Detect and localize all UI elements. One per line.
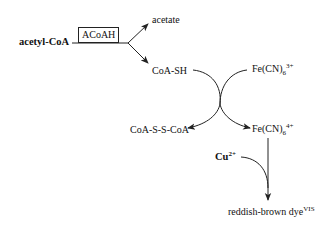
- curve-coash-to-disulfide: [188, 70, 220, 128]
- product-acetate: acetate: [152, 15, 180, 25]
- arrow-to-acetate: [128, 24, 148, 43]
- dye-label: reddish-brown dyeVIS: [228, 207, 315, 217]
- enzyme-label: ACoAH: [82, 29, 115, 40]
- curve-ferri-to-ferro: [220, 70, 250, 128]
- curve-copper: [241, 157, 268, 188]
- substrate-label: acetyl-CoA: [19, 37, 69, 48]
- ferrocyanide-label: Fe(CN)64+: [252, 124, 294, 134]
- arrow-to-coash: [128, 43, 148, 63]
- reaction-arrows: [0, 0, 332, 228]
- enzyme-box: ACoAH: [78, 27, 119, 43]
- copper-label: Cu2+: [215, 152, 236, 163]
- disulfide-label: CoA-S-S-CoA: [130, 125, 189, 135]
- ferricyanide-label: Fe(CN)63+: [252, 64, 294, 74]
- product-coash: CoA-SH: [152, 66, 187, 76]
